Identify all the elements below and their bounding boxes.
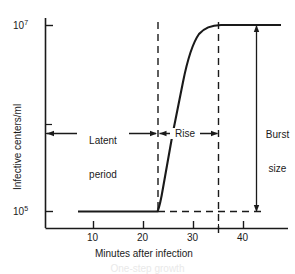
x-axis-title: Minutes after infection (95, 248, 193, 259)
x-tick-label-30: 30 (187, 232, 198, 243)
latent-period-line2: period (77, 169, 129, 180)
burst-size-line2: size (262, 163, 293, 174)
one-step-growth-curve-figure: 107 105 Infective centers/ml 10 20 30 40… (0, 0, 295, 274)
burst-size-line1: Burst (262, 129, 293, 140)
annotation-burst-size: Burst size (262, 107, 293, 197)
rise-arrow-head-right (211, 131, 218, 136)
x-tick-label-40: 40 (237, 232, 248, 243)
annotation-rise: Rise (170, 128, 200, 139)
x-tick-label-10: 10 (87, 232, 98, 243)
x-tick-label-20: 20 (137, 232, 148, 243)
latent-arrow-head-left (47, 131, 54, 136)
y-axis-title: Infective centers/ml (12, 104, 23, 190)
latent-period-line1: Latent (77, 135, 129, 146)
figure-caption-ghost: One-step growth (0, 263, 295, 274)
y-tick-label-1e5: 105 (13, 205, 28, 218)
annotation-latent-period: Latent period (77, 113, 129, 203)
latent-arrow-head-right (150, 131, 157, 136)
y-tick-label-1e7: 107 (13, 19, 28, 32)
rise-arrow-head-left (160, 131, 167, 136)
